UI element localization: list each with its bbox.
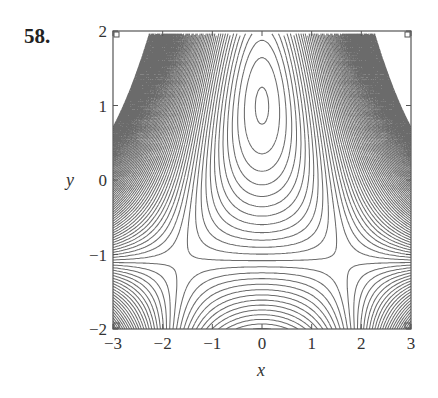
y-tick-label: 2 bbox=[77, 23, 107, 40]
y-tick-label: −1 bbox=[77, 246, 107, 263]
contour-lines bbox=[113, 34, 411, 329]
contour-path bbox=[113, 34, 411, 329]
x-axis-label: x bbox=[257, 360, 265, 381]
x-tick-label: 0 bbox=[258, 335, 267, 352]
y-tick-label: −2 bbox=[77, 321, 107, 338]
x-tick-label: 2 bbox=[357, 335, 366, 352]
x-tick-label: −1 bbox=[203, 335, 221, 352]
y-tick-label: 1 bbox=[77, 97, 107, 114]
x-tick-label: −2 bbox=[154, 335, 172, 352]
x-tick-label: 1 bbox=[307, 335, 316, 352]
x-tick-label: 3 bbox=[407, 335, 416, 352]
y-axis-label: y bbox=[66, 170, 74, 191]
y-tick-label: 0 bbox=[77, 172, 107, 189]
